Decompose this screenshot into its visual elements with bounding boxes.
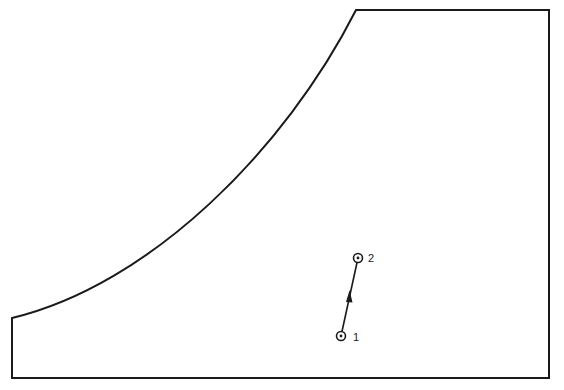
point-1-marker [337, 332, 346, 341]
point-2-label: 2 [368, 252, 374, 264]
region-boundary [12, 10, 549, 378]
point-2-marker [354, 254, 363, 263]
point-1-label: 1 [353, 331, 359, 343]
arrowhead-icon [346, 290, 353, 303]
displacement-vector [341, 258, 358, 336]
diagram-canvas: 1 2 [0, 0, 564, 390]
